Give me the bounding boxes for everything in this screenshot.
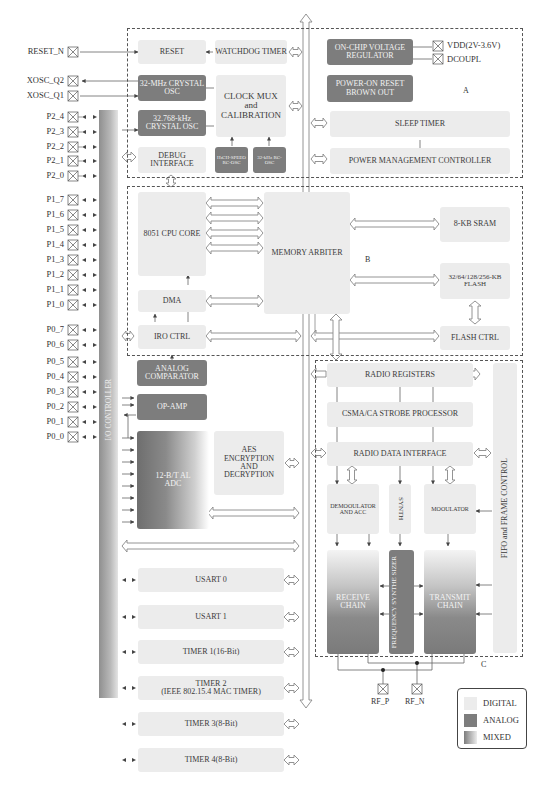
power-management-controller-block: POWER MANAGEMENT CONTROLLER <box>330 148 510 174</box>
modulator-block: MOOULATOR <box>424 484 476 534</box>
pin-dcoupl: DCOUPL <box>447 54 481 64</box>
radio-data-interface-block: RADIO DATA INTERFACE <box>327 442 473 466</box>
sram-block: 8-KB SRAM <box>440 207 510 242</box>
region-a-label: A <box>463 86 469 95</box>
analog-comparator-block: ANALOG COMPARATOR <box>137 360 207 386</box>
pin-p2-3: P2_3 <box>8 126 64 136</box>
dma-block: DMA <box>138 290 206 312</box>
pin-p1-2: P1_2 <box>8 269 64 279</box>
adc-line2: ADC <box>165 480 182 488</box>
cpu-core-block: 8051 CPU CORE <box>138 192 206 276</box>
region-c-label: C <box>481 660 486 669</box>
irq-ctrl-block: IRO CTRL <box>138 325 206 349</box>
pin-p0-2: P0_2 <box>8 401 64 411</box>
legend-label-digital: DIGITAL <box>483 698 517 708</box>
legend-label-analog: ANALOG <box>483 715 519 725</box>
usart0-block: USART 0 <box>138 568 284 592</box>
pin-p0-3: P0_3 <box>8 386 64 396</box>
clock-mux-line3: CALIBRATION <box>221 111 281 120</box>
timer2-block: TIMER 2 (IEEE 802.15.4 MAC TIMER) <box>138 676 284 700</box>
synth-label: SYNTH <box>396 497 403 520</box>
pin-p1-6: P1_6 <box>8 209 64 219</box>
pin-p2-4: P2_4 <box>8 111 64 121</box>
pin-rf-n: RF_N <box>405 697 425 706</box>
pin-vdd: VDD(2V-3.6V) <box>447 40 500 50</box>
pin-p0-5: P0_5 <box>8 356 64 366</box>
io-controller-label: I/O CONTROLLER <box>99 320 118 500</box>
legend: DIGITAL ANALOG MIXED <box>457 688 527 749</box>
pin-p2-0: P2_0 <box>8 170 64 180</box>
usart1-block: USART 1 <box>138 605 284 629</box>
high-speed-rc-osc-block: HıCH-SPEEO RC-OSC <box>215 147 248 173</box>
pin-rf-p: RF_P <box>371 697 389 706</box>
region-b-label: B <box>365 255 370 264</box>
timer4-block: TIMER 4(8-Bit) <box>138 748 284 772</box>
flash-ctrl-block: FLASH CTRL <box>440 326 510 350</box>
pin-p2-2: P2_2 <box>8 141 64 151</box>
power-on-reset-block: POWER-ON RESET BROWN OUT <box>327 75 413 102</box>
pin-p0-1: P0_1 <box>8 416 64 426</box>
frequency-synthesizer-label: FREQUENCY SYNTHE SIZER <box>391 556 413 648</box>
timer2-line2: (IEEE 802.15.4 MAC TIMER) <box>161 688 261 696</box>
pin-p0-0: P0_0 <box>8 431 64 441</box>
pin-p1-4: P1_4 <box>8 239 64 249</box>
watchdog-timer-block: WATCHDOG TIMER <box>215 40 287 64</box>
flash-block: 32/64/128/256-KB FLASH <box>440 263 510 299</box>
legend-swatch-analog <box>464 714 477 727</box>
pin-p1-7: P1_7 <box>8 194 64 204</box>
legend-label-mixed: MIXED <box>483 732 511 742</box>
fifo-frame-control-block: FIFO and FRAME CONTROL <box>493 363 517 653</box>
clock-mux-block: CLOCK MUX and CALIBRATION <box>216 75 286 137</box>
pin-reset-n: RESET_N <box>8 46 64 56</box>
adc-block: 12-B/T AL ADC <box>137 431 209 529</box>
radio-registers-block: RADIO REGISTERS <box>327 363 473 387</box>
frequency-synthesizer-block: FREQUENCY SYNTHE SIZER <box>389 550 414 654</box>
timer1-block: TIMER 1(16-Bit) <box>138 640 284 664</box>
debug-interface-block: DEBUG INTERFACE <box>138 147 206 173</box>
pin-xosc-q2: XOSC_Q2 <box>8 75 64 85</box>
rc-osc-32khz-block: 32-kHz RC-OSC <box>253 147 286 173</box>
aes-block: AES ENCRYPTION AND DECRYPTION <box>214 431 284 495</box>
pin-p0-7: P0_7 <box>8 324 64 334</box>
pin-p1-5: P1_5 <box>8 224 64 234</box>
csma-ca-block: CSMA/CA STROBE PROCESSOR <box>327 402 473 427</box>
pin-p1-0: P1_0 <box>8 299 64 309</box>
voltage-regulator-block: ON-CHIP VOLTAGE REGULATOR <box>327 39 413 65</box>
legend-swatch-mixed <box>464 731 477 744</box>
pin-xosc-q1: XOSC_Q1 <box>8 90 64 100</box>
pin-p1-1: P1_1 <box>8 284 64 294</box>
pin-p1-3: P1_3 <box>8 254 64 264</box>
legend-swatch-digital <box>464 697 477 710</box>
synth-block: SYNTH <box>389 484 411 534</box>
osc-32khz-block: 32.768-kHz CRYSTAL OSC <box>138 110 206 136</box>
fifo-frame-control-label: FIFO and FRAME CONTROL <box>501 458 509 558</box>
receive-chain-block: RECEIVE CHAIN <box>327 550 379 654</box>
pin-p2-1: P2_1 <box>8 155 64 165</box>
pin-p0-4: P0_4 <box>8 371 64 381</box>
osc-32mhz-block: 32-MHz CRYSTAL OSC <box>138 75 206 101</box>
pin-p0-6: P0_6 <box>8 339 64 349</box>
reset-block: RESET <box>138 40 206 64</box>
sleep-timer-block: SLEEP TIMER <box>330 111 510 137</box>
transmit-chain-block: TRANSMIT CHAIN <box>424 550 476 654</box>
demodulator-block: DEMOOULATOR AND ACC <box>327 484 379 534</box>
timer3-block: TIMER 3(8-Bit) <box>138 712 284 736</box>
memory-arbiter-block: MEMORY ARBITER <box>264 192 350 314</box>
op-amp-block: OP-AMP <box>137 394 207 420</box>
